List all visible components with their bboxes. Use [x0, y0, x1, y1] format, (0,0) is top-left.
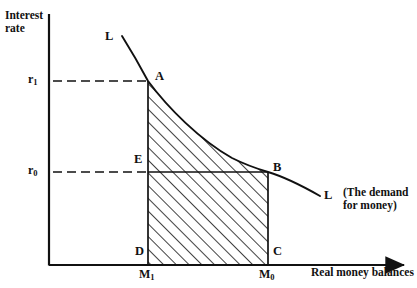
y-axis-title-line2: rate — [5, 22, 25, 34]
demand-annotation-line2: for money) — [343, 199, 397, 211]
point-label-d: D — [135, 244, 144, 258]
diagram-canvas — [0, 0, 417, 288]
demand-curve-annotation: (The demand for money) — [343, 186, 409, 212]
x-tick-label-m0: M0 — [259, 268, 275, 281]
x-tick-m1-subscript: 1 — [150, 272, 154, 282]
point-label-a: A — [155, 69, 164, 83]
point-label-e: E — [134, 152, 142, 166]
x-tick-label-m1: M1 — [139, 268, 155, 281]
point-label-c: C — [273, 244, 282, 258]
y-tick-r0-subscript: 0 — [33, 168, 37, 178]
y-tick-label-r1: r1 — [28, 73, 38, 86]
x-axis-title: Real money balances — [311, 266, 414, 279]
curve-label-l-end: L — [324, 188, 332, 202]
point-label-b: B — [273, 160, 281, 174]
demand-annotation-line1: (The demand — [343, 186, 409, 198]
y-tick-label-r0: r0 — [28, 164, 38, 177]
x-tick-m0-subscript: 0 — [270, 272, 274, 282]
curve-label-l-start: L — [105, 29, 113, 43]
y-axis-title-line1: Interest — [5, 9, 43, 21]
money-demand-diagram: Interest rate Real money balances r1 r0 … — [0, 0, 417, 288]
x-tick-m1-base: M — [139, 267, 150, 281]
y-tick-r1-subscript: 1 — [33, 77, 37, 87]
x-tick-m0-base: M — [259, 267, 270, 281]
shaded-region — [148, 81, 268, 265]
y-axis-title: Interest rate — [5, 9, 43, 35]
